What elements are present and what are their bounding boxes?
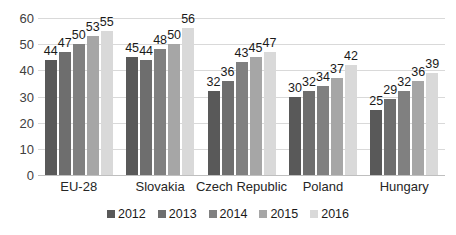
y-tick-label: 60 <box>0 12 34 25</box>
legend-item-2013[interactable]: 2013 <box>158 208 197 221</box>
bar <box>140 60 152 175</box>
bar-value-label: 36 <box>411 66 425 79</box>
bar-value-label: 29 <box>383 84 397 97</box>
bar <box>59 52 71 175</box>
legend-label: 2013 <box>169 208 197 221</box>
bar <box>289 97 301 176</box>
legend-swatch-icon <box>158 210 166 218</box>
bar <box>208 91 220 175</box>
bar <box>264 52 276 175</box>
bar-value-label: 45 <box>249 42 263 55</box>
bar-chart: 0102030405060 44475053554544485056323643… <box>0 0 456 235</box>
bar <box>101 31 113 175</box>
bar <box>154 49 166 175</box>
x-axis: EU-28SlovakiaCzech RepublicPolandHungary <box>38 179 445 199</box>
y-tick-label: 20 <box>0 116 34 129</box>
bar-value-label: 50 <box>72 29 86 42</box>
legend-swatch-icon <box>107 210 115 218</box>
x-tick-label: Slovakia <box>136 179 185 195</box>
bar <box>73 44 85 175</box>
bar <box>331 78 343 175</box>
bar <box>236 62 248 175</box>
y-tick-label: 0 <box>0 169 34 182</box>
bar <box>426 73 438 175</box>
plot-area: 4447505355454448505632364345473032343742… <box>38 18 445 175</box>
bar <box>384 99 396 175</box>
chart-legend: 20122013201420152016 <box>0 208 456 221</box>
bar <box>303 91 315 175</box>
bar-stack <box>289 18 357 175</box>
bar-value-label: 32 <box>397 76 411 89</box>
bar-value-label: 48 <box>153 34 167 47</box>
legend-item-2016[interactable]: 2016 <box>310 208 349 221</box>
bar <box>87 36 99 175</box>
bar-value-label: 37 <box>330 63 344 76</box>
bar-value-label: 30 <box>288 82 302 95</box>
y-tick-label: 10 <box>0 142 34 155</box>
legend-label: 2015 <box>270 208 298 221</box>
x-tick-label: Czech Republic <box>196 179 287 195</box>
bar-value-label: 32 <box>302 76 316 89</box>
y-tick-label: 40 <box>0 64 34 77</box>
bar <box>345 65 357 175</box>
bar-value-label: 47 <box>263 37 277 50</box>
bar <box>370 110 382 175</box>
gridline-0 <box>38 175 445 176</box>
bar <box>250 57 262 175</box>
bar-value-label: 44 <box>44 45 58 58</box>
bar <box>222 81 234 175</box>
legend-swatch-icon <box>259 210 267 218</box>
legend-label: 2014 <box>220 208 248 221</box>
bar <box>168 44 180 175</box>
bar-value-label: 53 <box>86 21 100 34</box>
legend-item-2015[interactable]: 2015 <box>259 208 298 221</box>
bar <box>182 28 194 175</box>
bar-group <box>289 18 357 175</box>
y-axis: 0102030405060 <box>0 18 34 175</box>
bar-value-label: 47 <box>58 37 72 50</box>
legend-swatch-icon <box>310 210 318 218</box>
bar-value-label: 39 <box>425 58 439 71</box>
bar <box>412 81 424 175</box>
legend-swatch-icon <box>209 210 217 218</box>
bar-value-label: 36 <box>221 66 235 79</box>
bar <box>45 60 57 175</box>
bar-value-label: 45 <box>125 42 139 55</box>
legend-item-2014[interactable]: 2014 <box>209 208 248 221</box>
legend-item-2012[interactable]: 2012 <box>107 208 146 221</box>
x-tick-label: Hungary <box>380 179 429 195</box>
bar-value-label: 42 <box>344 50 358 63</box>
bar-value-label: 43 <box>235 47 249 60</box>
bar-value-label: 32 <box>207 76 221 89</box>
bar-value-label: 44 <box>139 45 153 58</box>
bar-value-label: 50 <box>167 29 181 42</box>
x-tick-label: Poland <box>303 179 343 195</box>
bar-value-label: 34 <box>316 71 330 84</box>
bar <box>126 57 138 175</box>
x-tick-label: EU-28 <box>60 179 97 195</box>
y-tick-label: 50 <box>0 38 34 51</box>
bar <box>398 91 410 175</box>
bar-value-label: 56 <box>181 13 195 26</box>
legend-label: 2016 <box>321 208 349 221</box>
legend-label: 2012 <box>118 208 146 221</box>
bar-value-label: 25 <box>369 95 383 108</box>
bar-value-label: 55 <box>100 16 114 29</box>
bar <box>317 86 329 175</box>
y-tick-label: 30 <box>0 90 34 103</box>
